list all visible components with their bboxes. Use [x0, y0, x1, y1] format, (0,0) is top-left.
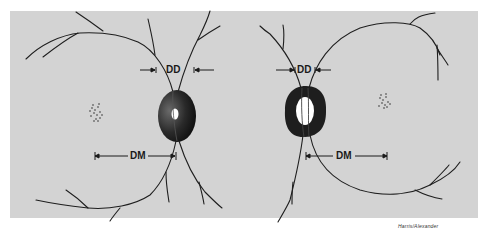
right-dd-label: DD: [297, 65, 311, 75]
left-dm-label: DM: [130, 151, 146, 161]
right-dm-label: DM: [336, 151, 352, 161]
fundus-diagram-svg: [0, 0, 486, 235]
left-optic-cup: [172, 109, 179, 120]
figure-credit: Harris/Alexander: [398, 223, 438, 229]
right-macula: [378, 93, 391, 109]
left-dd-label: DD: [166, 65, 180, 75]
right-optic-cup: [296, 97, 314, 125]
left-macula: [89, 103, 103, 122]
